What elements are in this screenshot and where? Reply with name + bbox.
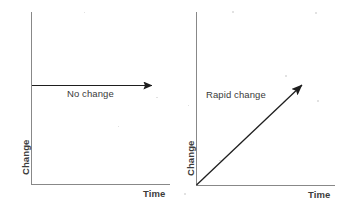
no-change-plot-svg xyxy=(0,0,172,208)
series-annotation-rapid-change: Rapid change xyxy=(206,89,266,100)
rapid-change-plot-svg xyxy=(172,0,345,208)
x-axis-label: Time xyxy=(143,188,165,199)
figure-root: Change Time No change Change Time xyxy=(0,0,345,208)
y-axis-label: Change xyxy=(20,140,31,175)
series-annotation-no-change: No change xyxy=(67,88,114,99)
y-axis-label: Change xyxy=(185,141,196,176)
chart-panel-no-change: Change Time No change xyxy=(0,0,172,208)
x-axis-label: Time xyxy=(308,189,330,200)
chart-panel-rapid-change: Change Time Rapid change xyxy=(172,0,345,208)
rapid-change-trend-arrow xyxy=(197,85,303,185)
